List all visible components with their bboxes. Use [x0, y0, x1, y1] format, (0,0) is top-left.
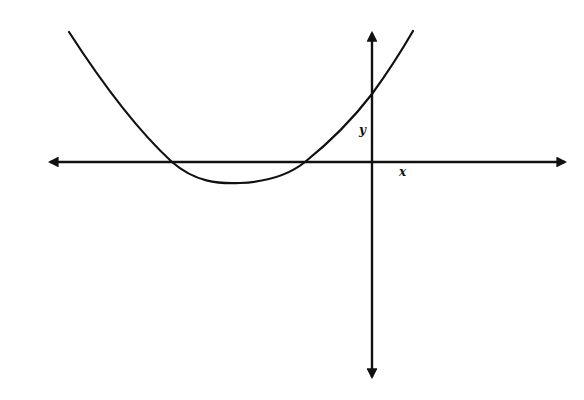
x-axis-label: x [398, 165, 407, 179]
parabola-graph: y x [0, 0, 584, 400]
parabola-curve [69, 31, 413, 183]
y-axis-label: y [358, 123, 367, 137]
